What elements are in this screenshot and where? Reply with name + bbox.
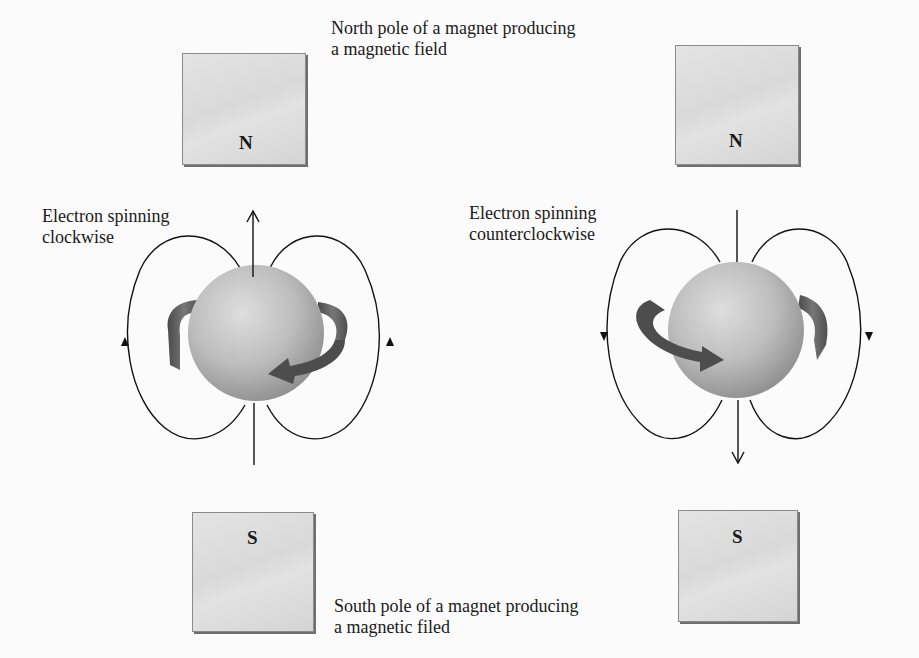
arrowhead-up-icon: [386, 337, 394, 346]
north-pole-caption: North pole of a magnet producing a magne…: [331, 18, 575, 60]
electron-sphere: [668, 262, 804, 398]
arrowhead-down-icon: [865, 332, 873, 341]
field-diagram-graphics: [0, 0, 919, 658]
electron-clockwise: [121, 211, 394, 465]
electron-clockwise-label: Electron spinning clockwise: [42, 206, 169, 248]
electron-sphere: [188, 265, 324, 401]
south-pole-caption: South pole of a magnet producing a magne…: [334, 596, 578, 638]
electron-counterclockwise-label: Electron spinning counterclockwise: [469, 203, 596, 245]
electron-counterclockwise: [600, 210, 873, 463]
electron-spin-diagram: N N S S: [0, 0, 919, 658]
